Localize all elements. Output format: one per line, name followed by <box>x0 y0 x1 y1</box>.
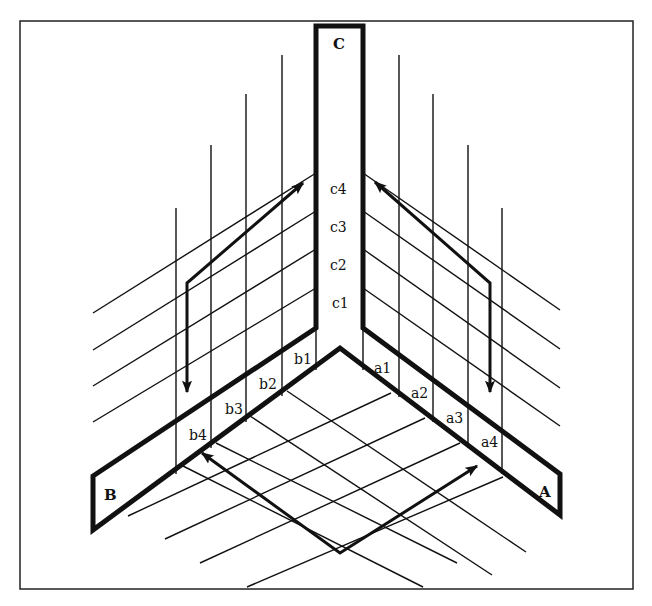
label-a2: a2 <box>411 385 428 401</box>
label-b2: b2 <box>259 376 277 392</box>
label-c2: c2 <box>330 257 347 273</box>
left-wall-arrow <box>187 183 303 392</box>
label-a3: a3 <box>446 410 463 426</box>
label-b4: b4 <box>189 427 207 443</box>
corner-diagram: C c4 c3 c2 c1 b1 b2 b3 b4 B a1 a2 a3 a4 … <box>0 0 652 606</box>
label-b3: b3 <box>225 401 243 417</box>
label-A: A <box>538 483 551 501</box>
left-wall-vertical-lines <box>176 55 316 474</box>
label-B: B <box>104 486 117 504</box>
label-c3: c3 <box>330 219 347 235</box>
label-c4: c4 <box>330 181 347 197</box>
label-C: C <box>333 35 345 53</box>
label-b1: b1 <box>294 351 312 367</box>
corner-outline <box>93 26 560 530</box>
label-a1: a1 <box>374 360 391 376</box>
floor-grid-lines <box>128 391 526 587</box>
label-a4: a4 <box>481 434 498 450</box>
label-c1: c1 <box>332 295 349 311</box>
